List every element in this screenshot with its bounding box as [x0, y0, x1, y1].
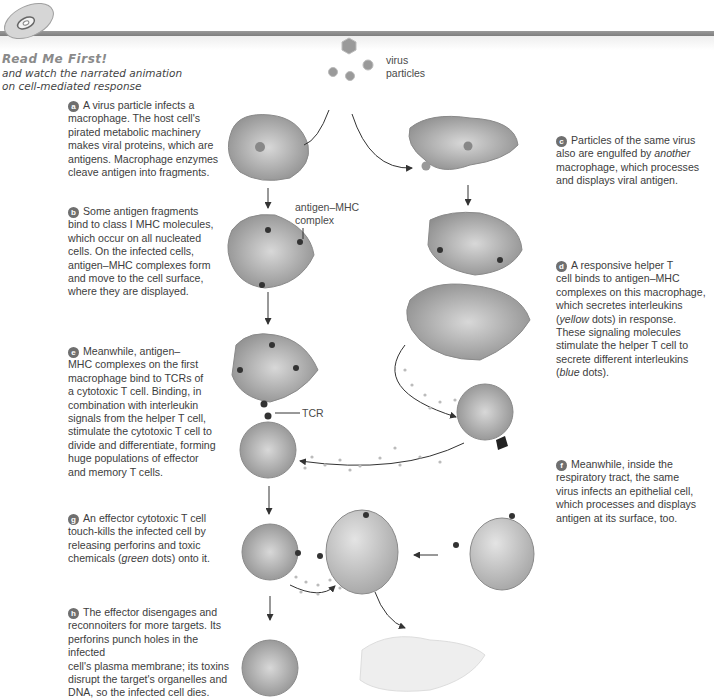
step-line: cell binds to antigen–MHC [556, 272, 680, 284]
step-line: disrupt the target's organelles and [68, 673, 227, 685]
step-line: (blue dots). [556, 366, 609, 378]
step-line: These signaling molecules [556, 326, 681, 338]
step-line: perforins punch holes in the infected [68, 633, 198, 658]
step-line: where they are displayed. [68, 285, 189, 297]
step-line: which secretes interleukins [556, 299, 683, 311]
label-line: particles [386, 67, 425, 80]
step-line: reconnoiters for more targets. Its [68, 619, 221, 631]
step-g: gAn effector cytotoxic T cell touch-kill… [68, 512, 233, 566]
label-virus-particles: virus particles [386, 54, 425, 79]
step-line: Particles of the same virus [571, 134, 695, 146]
step-line: The effector disengages and [83, 606, 217, 618]
step-line: (yellow dots) in response. [556, 313, 676, 325]
step-line: Meanwhile, antigen– [83, 345, 180, 357]
step-line: and move to the cell surface, [68, 272, 203, 284]
step-line: a cytotoxic T cell. Binding, in [68, 385, 201, 397]
step-d: dA responsive helper T cell binds to ant… [556, 259, 714, 380]
step-badge-c: c [556, 136, 567, 147]
step-line: respiratory tract, the same [556, 471, 679, 483]
step-line: A responsive helper T [571, 259, 673, 271]
step-line: MHC complexes on the first [68, 358, 198, 370]
step-line: stimulate the cytotoxic T cell to [68, 425, 212, 437]
step-line: and memory T cells. [68, 466, 163, 478]
step-line: Some antigen fragments [83, 205, 198, 217]
step-line: A virus particle infects a [83, 99, 194, 111]
step-line: complexes on this macrophage, [556, 286, 706, 298]
step-a: aA virus particle infects a macrophage. … [68, 99, 233, 179]
step-line: macrophage, which processes [556, 161, 699, 173]
step-badge-e: e [68, 347, 79, 358]
step-line: antigen at its surface, too. [556, 512, 677, 524]
step-line: signals from the helper T cell, [68, 412, 206, 424]
step-line: virus infects an epithelial cell, [556, 485, 693, 497]
macrophage-a [228, 115, 308, 181]
step-line: antigens. Macrophage enzymes [68, 153, 218, 165]
step-line: touch-kills the infected cell by [68, 525, 206, 537]
virus-particles [329, 38, 374, 81]
step-line: macrophage bind to TCRs of [68, 372, 203, 384]
label-antigen-mhc-complex: antigen–MHC complex [295, 201, 359, 226]
step-line: huge populations of effector [68, 452, 199, 464]
step-badge-b: b [68, 207, 79, 218]
step-line: antigen–MHC complexes form [68, 259, 210, 271]
step-line: cells. On the infected cells, [68, 245, 194, 257]
step-line: divide and differentiate, forming [68, 439, 216, 451]
step-badge-h: h [68, 608, 79, 619]
label-line: virus [386, 54, 425, 67]
step-c: cParticles of the same virus also are en… [556, 134, 714, 188]
step-line: releasing perforins and toxic [68, 539, 201, 551]
step-line: and displays viral antigen. [556, 174, 678, 186]
step-line: stimulate the helper T cell to [556, 339, 688, 351]
label-line: antigen–MHC [295, 201, 359, 214]
step-badge-g: g [68, 514, 79, 525]
step-line: macrophage. The host cell's [68, 112, 200, 124]
step-badge-a: a [68, 101, 79, 112]
step-line: secrete different interleukins [556, 353, 688, 365]
step-line: cleave antigen into fragments. [68, 166, 209, 178]
step-b: bSome antigen fragments bind to class I … [68, 205, 233, 299]
label-tcr: TCR [302, 407, 324, 420]
step-h: hThe effector disengages and reconnoiter… [68, 606, 238, 699]
step-line: makes viral proteins, which are [68, 139, 213, 151]
step-line: An effector cytotoxic T cell [83, 512, 206, 524]
step-badge-f: f [556, 460, 567, 471]
step-line: chemicals (green dots) onto it. [68, 552, 210, 564]
step-line: which occur on all nucleated [68, 232, 201, 244]
step-line: DNA, so the infected cell dies. [68, 686, 209, 698]
step-line: pirated metabolic machinery [68, 126, 200, 138]
step-line: Meanwhile, inside the [571, 458, 673, 470]
label-line: complex [295, 214, 359, 227]
step-line: combination with interleukin [68, 399, 198, 411]
step-line: also are engulfed by another [556, 147, 690, 159]
step-e: eMeanwhile, antigen– MHC complexes on th… [68, 345, 233, 479]
step-f: fMeanwhile, inside the respiratory tract… [556, 458, 714, 525]
step-line: bind to class I MHC molecules, [68, 218, 213, 230]
step-line: cell's plasma membrane; its toxins [68, 660, 229, 672]
step-line: which processes and displays [556, 498, 696, 510]
step-badge-d: d [556, 261, 567, 272]
